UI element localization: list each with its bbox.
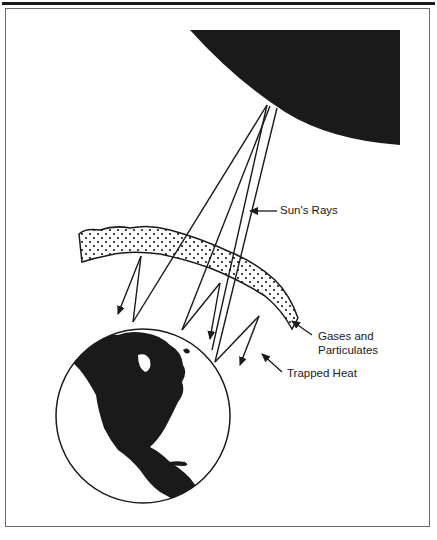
sun-shape	[190, 30, 400, 145]
greenhouse-diagram	[0, 0, 437, 540]
gases-label-line2: Particulates	[318, 344, 378, 357]
trapped-heat-label: Trapped Heat	[287, 367, 357, 380]
suns-rays-label: Sun's Rays	[280, 204, 338, 217]
gases-label-line1: Gases and	[318, 330, 374, 343]
